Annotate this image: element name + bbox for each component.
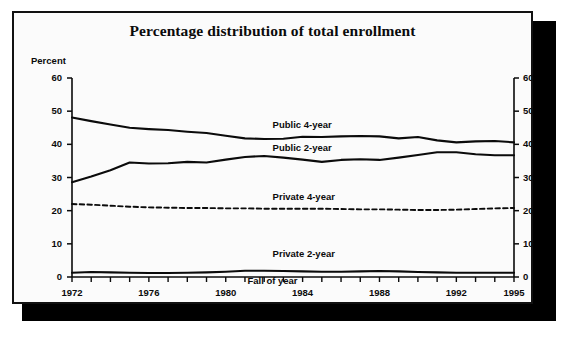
y-tick-label-left: 30 (40, 172, 62, 183)
x-tick-label: 1980 (206, 287, 246, 298)
y-tick-label-left: 40 (40, 138, 62, 149)
figure-frame: Percentage distribution of total enrollm… (12, 11, 533, 304)
x-tick-label: 1988 (359, 287, 399, 298)
y-tick-label-right: 20 (523, 205, 545, 216)
y-tick-label-left: 20 (40, 205, 62, 216)
x-tick-label: 1992 (436, 287, 476, 298)
series-label-public4: Public 4-year (271, 119, 334, 130)
x-tick-label: 1995 (494, 287, 534, 298)
y-tick-label-right: 30 (523, 172, 545, 183)
y-tick-label-left: 0 (40, 271, 62, 282)
series-label-private4: Private 4-year (271, 191, 337, 202)
y-tick-label-left: 10 (40, 238, 62, 249)
series-line-3 (72, 271, 514, 273)
x-tick-label: 1972 (52, 287, 92, 298)
y-tick-label-right: 10 (523, 238, 545, 249)
x-tick-label: 1976 (129, 287, 169, 298)
y-tick-label-right: 0 (523, 271, 545, 282)
series-line-1 (72, 152, 514, 182)
series-label-public2: Public 2-year (271, 142, 334, 153)
y-tick-label-right: 40 (523, 138, 545, 149)
series-line-2 (72, 204, 514, 210)
series-label-private2: Private 2-year (271, 248, 337, 259)
y-tick-label-right: 50 (523, 105, 545, 116)
y-tick-label-left: 50 (40, 105, 62, 116)
y-tick-label-right: 60 (523, 72, 545, 83)
y-tick-label-left: 60 (40, 72, 62, 83)
x-tick-label: 1984 (283, 287, 323, 298)
figure-root: Percentage distribution of total enrollm… (0, 0, 564, 345)
